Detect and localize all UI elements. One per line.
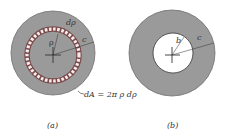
figure-a-solid-shaft: dρ ρ c dA = 2π ρ dρ (a) bbox=[11, 11, 137, 130]
label-b: b bbox=[176, 36, 181, 45]
label-d-rho: dρ bbox=[66, 18, 76, 27]
caption-b: (b) bbox=[167, 121, 178, 130]
figure-b-hollow-shaft: b c (b) bbox=[129, 10, 215, 130]
caption-a: (a) bbox=[47, 121, 58, 130]
shaft-cross-sections-diagram: dρ ρ c dA = 2π ρ dρ (a) b c (b) bbox=[0, 0, 227, 136]
label-c-b: c bbox=[197, 33, 202, 42]
label-c-a: c bbox=[82, 35, 87, 44]
hollow-bore bbox=[153, 33, 193, 73]
label-rho: ρ bbox=[49, 38, 54, 47]
label-area-element: dA = 2π ρ dρ bbox=[84, 90, 137, 99]
